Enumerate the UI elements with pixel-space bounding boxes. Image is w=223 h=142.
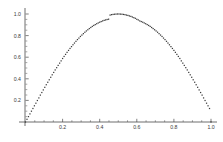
data-point (53, 72, 54, 73)
data-point (38, 97, 39, 98)
data-point (157, 32, 158, 33)
x-tick-label: 0.4 (96, 124, 103, 130)
data-point (124, 14, 125, 15)
data-point (190, 74, 191, 75)
data-point (173, 50, 174, 51)
data-point (191, 77, 192, 78)
data-point (83, 33, 84, 34)
data-point (104, 20, 105, 21)
data-point (105, 19, 106, 20)
data-point (41, 92, 42, 93)
data-point (32, 108, 33, 109)
data-point (188, 72, 189, 73)
data-point (147, 24, 148, 25)
data-point (135, 18, 136, 19)
data-point (207, 105, 208, 106)
data-point (199, 89, 200, 90)
data-point (59, 63, 60, 64)
data-point (139, 20, 140, 21)
data-point (28, 116, 29, 117)
data-point (98, 22, 99, 23)
data-point (31, 111, 32, 112)
data-point (66, 52, 67, 53)
data-point (130, 16, 131, 17)
data-point (77, 39, 78, 40)
data-point (170, 46, 171, 47)
data-point (154, 29, 155, 30)
data-point (49, 79, 50, 80)
data-point (115, 13, 116, 14)
data-point (181, 60, 182, 61)
x-tick-label: 0.8 (170, 124, 177, 130)
data-point (166, 41, 167, 42)
data-point (109, 14, 110, 15)
data-point (204, 100, 205, 101)
x-tick-label: 0.6 (133, 124, 140, 130)
data-point (197, 87, 198, 88)
data-point (129, 15, 130, 16)
data-point (121, 14, 122, 15)
data-point (25, 121, 26, 122)
x-tick-label: 1.0 (207, 124, 214, 130)
data-point (86, 30, 87, 31)
data-point (96, 23, 97, 24)
data-point (37, 100, 38, 101)
data-point (133, 17, 134, 18)
data-point (52, 74, 53, 75)
data-point (169, 44, 170, 45)
data-point (93, 25, 94, 26)
data-point (132, 16, 133, 17)
data-point (187, 69, 188, 70)
data-point (114, 14, 115, 15)
data-point (58, 65, 59, 66)
data-point (62, 58, 63, 59)
data-point (118, 13, 119, 14)
data-point (55, 69, 56, 70)
data-point (182, 63, 183, 64)
data-point (127, 15, 128, 16)
data-point (153, 28, 154, 29)
data-point (160, 34, 161, 35)
data-point (56, 67, 57, 68)
data-point (206, 103, 207, 104)
data-point (71, 46, 72, 47)
data-point (150, 26, 151, 27)
data-point (136, 19, 137, 20)
data-point (161, 36, 162, 37)
data-point (75, 41, 76, 42)
data-point (126, 14, 127, 15)
data-point (69, 48, 70, 49)
plot-background (0, 0, 223, 142)
data-point (68, 50, 69, 51)
data-point (123, 14, 124, 15)
data-point (26, 119, 27, 120)
data-point (95, 24, 96, 25)
data-point (210, 121, 211, 122)
data-point (145, 23, 146, 24)
data-point (50, 77, 51, 78)
data-point (201, 94, 202, 95)
data-point (107, 19, 108, 20)
data-point (78, 37, 79, 38)
data-point (47, 82, 48, 83)
data-point (72, 44, 73, 45)
data-point (63, 56, 64, 57)
data-point (99, 22, 100, 23)
y-tick-label: 0.2 (14, 97, 21, 103)
data-point (29, 113, 30, 114)
y-tick-label: 0.4 (14, 76, 21, 82)
data-point (141, 21, 142, 22)
data-point (43, 89, 44, 90)
data-point (101, 21, 102, 22)
data-point (102, 20, 103, 21)
data-point (35, 103, 36, 104)
scatter-plot: 0.20.40.60.81.0 0.20.40.60.81.0 (0, 0, 223, 142)
data-point (65, 54, 66, 55)
data-point (194, 82, 195, 83)
data-point (196, 84, 197, 85)
data-point (111, 14, 112, 15)
data-point (81, 34, 82, 35)
data-point (108, 19, 109, 20)
data-point (158, 33, 159, 34)
data-point (203, 97, 204, 98)
